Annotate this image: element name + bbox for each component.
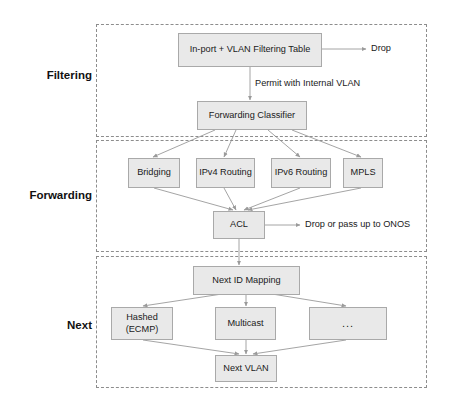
section-label-filtering: Filtering	[20, 68, 92, 82]
node-next-id-mapping[interactable]: Next ID Mapping	[193, 266, 300, 295]
annotation-permit-with-internal-vlan: Permit with Internal VLAN	[255, 78, 360, 89]
node-ipv4-routing[interactable]: IPv4 Routing	[196, 158, 255, 188]
node-mpls[interactable]: MPLS	[343, 158, 383, 188]
pipeline-diagram: Filtering Forwarding Next In-port + VLAN…	[0, 0, 450, 412]
node-next-vlan[interactable]: Next VLAN	[215, 355, 277, 382]
node-acl[interactable]: ACL	[213, 211, 265, 239]
section-label-forwarding: Forwarding	[12, 188, 92, 202]
annotation-drop: Drop	[371, 43, 391, 54]
annotation-drop-or-pass-up-to-onos: Drop or pass up to ONOS	[305, 219, 410, 230]
node-bridging[interactable]: Bridging	[128, 158, 180, 188]
node-forwarding-classifier[interactable]: Forwarding Classifier	[197, 101, 307, 130]
node-ipv6-routing[interactable]: IPv6 Routing	[271, 158, 331, 188]
section-label-next: Next	[20, 318, 92, 332]
node-hashed-ecmp[interactable]: Hashed (ECMP)	[111, 307, 173, 340]
node-more[interactable]: ...	[309, 307, 387, 340]
node-inport-vlan-filtering-table[interactable]: In-port + VLAN Filtering Table	[178, 33, 322, 67]
node-multicast[interactable]: Multicast	[215, 307, 276, 340]
